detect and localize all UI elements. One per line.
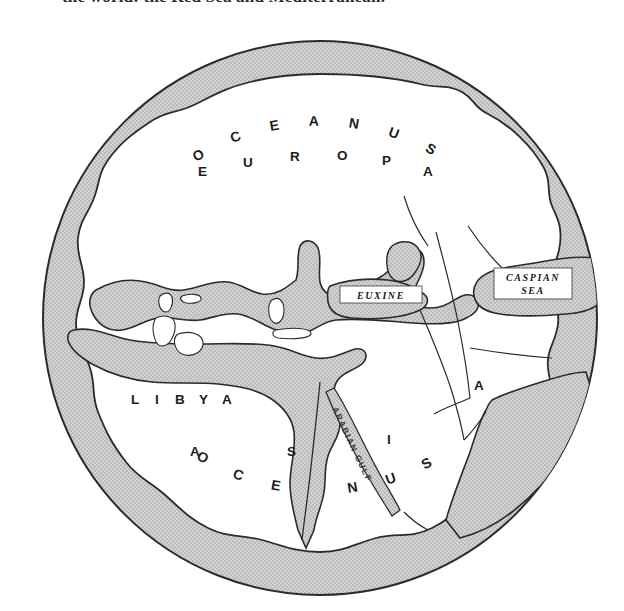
europa-letter-a: A [423, 164, 433, 179]
libya-letter-l: L [131, 392, 139, 407]
sea-label-caspian: CASPIAN SEA [494, 268, 572, 299]
caspian-label-line2: SEA [521, 285, 545, 296]
asia-letter-s: S [287, 444, 296, 459]
island-corsica [159, 293, 173, 312]
europa-letter-p: P [382, 153, 391, 168]
euxine-label-text: EUXINE [356, 290, 405, 301]
europa-letter-r: R [290, 149, 300, 164]
europa-letter-o: O [337, 148, 348, 163]
libya-letter-a: A [222, 392, 232, 407]
asia-letter-a: A [190, 444, 200, 459]
island-elba [181, 294, 201, 303]
asia-letter-i: I [387, 432, 391, 447]
world-map-drawing: O C E A N U S O C E A N U S [0, 0, 624, 611]
europa-letter-u: U [243, 155, 253, 170]
map-figure: the world: the Red Sea and Mediterranean… [0, 0, 624, 611]
sea-label-euxine: EUXINE [340, 286, 422, 303]
caspian-label-line1: CASPIAN [506, 272, 560, 283]
libya-letter-i: I [155, 392, 159, 407]
asia-letter-a2: A [474, 378, 484, 393]
island-sicily [175, 332, 204, 355]
libya-letter-b: B [175, 392, 185, 407]
island-cyprus [269, 298, 284, 323]
europa-letter-e: E [198, 164, 207, 179]
island-crete [273, 328, 311, 338]
libya-letter-y: Y [199, 392, 208, 407]
